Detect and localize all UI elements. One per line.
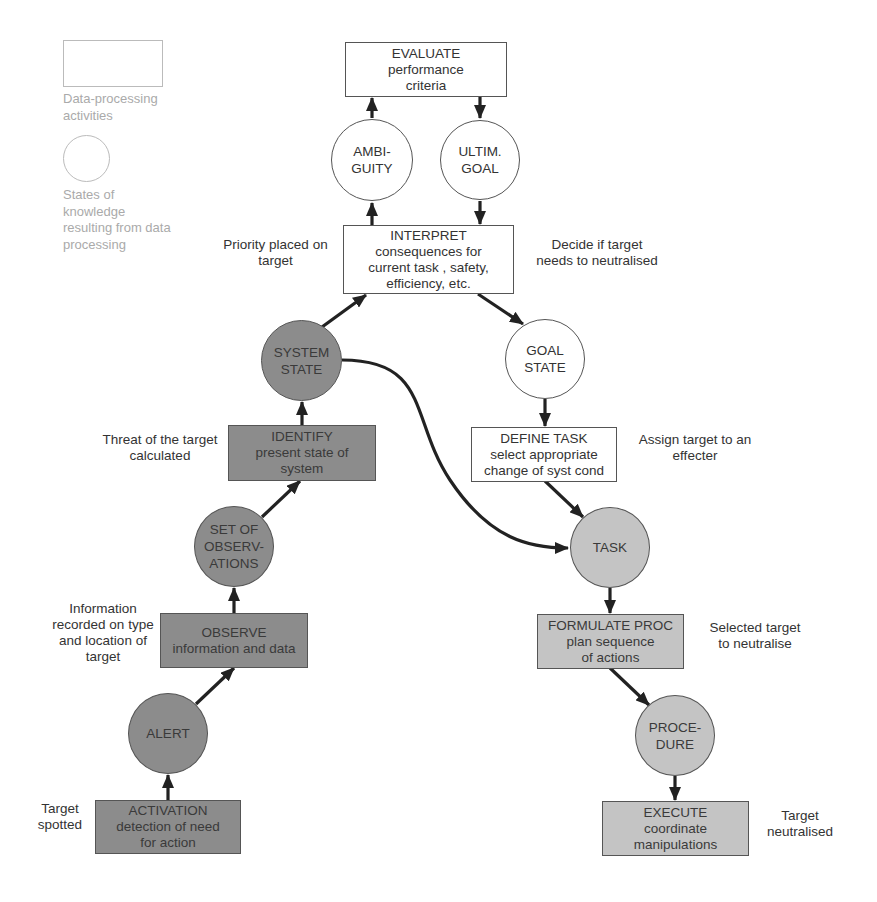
annotation-line: Selected target (700, 620, 810, 636)
legend-activity-label: Data-processing activities (63, 91, 158, 124)
annotation-decide: Decide if target needs to neutralised (522, 237, 672, 269)
legend-state-swatch (63, 135, 110, 182)
activity-observe: OBSERVE information and data (160, 613, 308, 668)
legend-activity-swatch (63, 40, 163, 87)
annotation-line: calculated (95, 448, 225, 464)
activity-line: present state of (255, 445, 348, 461)
legend-line: resulting from data (63, 220, 171, 237)
activity-line: for action (140, 835, 196, 851)
arrow-observations-identify (262, 481, 300, 517)
state-line: DURE (656, 736, 694, 753)
activity-interpret: INTERPRET consequences for current task … (343, 225, 514, 294)
legend-line: activities (63, 108, 158, 125)
state-ambiguity: AMBI- GUITY (331, 119, 413, 201)
activity-execute: EXECUTE coordinate manipulations (602, 801, 749, 856)
activity-line: plan sequence (567, 634, 655, 650)
annotation-line: needs to neutralised (522, 253, 672, 269)
activity-title: INTERPRET (390, 228, 467, 244)
state-task: TASK (570, 507, 650, 588)
activity-title: EVALUATE (392, 46, 461, 62)
annotation-line: effecter (630, 448, 760, 464)
annotation-line: Target (760, 808, 840, 824)
annotation-priority: Priority placed on target (213, 237, 338, 269)
annotation-spotted: Target spotted (30, 801, 90, 833)
state-line: AMBI- (353, 143, 391, 160)
arrow-alert-observe (196, 668, 234, 704)
legend-state-label: States of knowledge resulting from data … (63, 187, 171, 253)
state-procedure: PROCE- DURE (635, 695, 715, 776)
annotation-selected: Selected target to neutralise (700, 620, 810, 652)
legend-line: knowledge (63, 204, 171, 221)
activity-line: criteria (406, 78, 447, 94)
activity-title: FORMULATE PROC (548, 618, 673, 634)
annotation-threat: Threat of the target calculated (95, 432, 225, 464)
activity-title: EXECUTE (644, 805, 708, 821)
arrow-formulate-procedure (610, 668, 649, 705)
activity-line: select appropriate (490, 447, 597, 463)
annotation-line: Decide if target (522, 237, 672, 253)
arrow-interpret-goalstate (478, 294, 523, 324)
legend-line: Data-processing (63, 91, 158, 108)
activity-line: detection of need (116, 819, 220, 835)
annotation-neutralised: Target neutralised (760, 808, 840, 840)
state-set-of-observations: SET OF OBSERV- ATIONS (194, 506, 274, 587)
activity-title: OBSERVE (201, 625, 266, 641)
state-ultim-goal: ULTIM. GOAL (440, 120, 520, 200)
activity-line: information and data (172, 641, 295, 657)
state-line: GOAL (461, 160, 499, 177)
state-line: ALERT (146, 725, 189, 742)
annotation-line: Assign target to an (630, 432, 760, 448)
annotation-line: Target (30, 801, 90, 817)
activity-line: change of syst cond (484, 463, 604, 479)
state-line: OBSERV- (204, 538, 264, 555)
state-goal-state: GOAL STATE (505, 319, 585, 399)
state-system-state: SYSTEM STATE (261, 320, 342, 401)
annotation-line: recorded on type (48, 617, 158, 633)
annotation-assign: Assign target to an effecter (630, 432, 760, 464)
activity-line: consequences for (375, 244, 482, 260)
arrow-systemstate-interpret (322, 295, 366, 327)
activity-evaluate: EVALUATE performance criteria (345, 42, 507, 97)
state-line: GUITY (351, 160, 392, 177)
annotation-information: Information recorded on type and locatio… (48, 601, 158, 665)
annotation-line: neutralised (760, 824, 840, 840)
activity-title: DEFINE TASK (500, 431, 587, 447)
annotation-line: Information (48, 601, 158, 617)
state-line: TASK (593, 539, 627, 556)
activity-identify: IDENTIFY present state of system (228, 425, 376, 481)
activity-line: efficiency, etc. (386, 276, 470, 292)
annotation-line: spotted (30, 817, 90, 833)
annotation-line: Priority placed on (213, 237, 338, 253)
state-line: STATE (524, 359, 566, 376)
annotation-line: target (48, 649, 158, 665)
activity-line: current task , safety, (368, 260, 489, 276)
state-line: SYSTEM (274, 344, 330, 361)
activity-line: coordinate (644, 821, 707, 837)
activity-line: of actions (582, 650, 640, 666)
annotation-line: target (213, 253, 338, 269)
arrow-definetask-task (545, 481, 583, 517)
activity-title: ACTIVATION (128, 803, 207, 819)
state-line: ATIONS (209, 555, 258, 572)
legend-line: States of (63, 187, 171, 204)
activity-define-task: DEFINE TASK select appropriate change of… (471, 427, 617, 482)
state-line: STATE (281, 361, 323, 378)
annotation-line: to neutralise (700, 636, 810, 652)
activity-activation: ACTIVATION detection of need for action (95, 800, 241, 854)
activity-line: system (281, 461, 324, 477)
activity-line: manipulations (634, 837, 717, 853)
annotation-line: and location of (48, 633, 158, 649)
activity-formulate-proc: FORMULATE PROC plan sequence of actions (537, 614, 684, 669)
annotation-line: Threat of the target (95, 432, 225, 448)
state-line: SET OF (210, 521, 259, 538)
state-line: PROCE- (649, 719, 702, 736)
activity-line: performance (388, 62, 464, 78)
state-alert: ALERT (128, 693, 208, 774)
legend-line: processing (63, 237, 171, 254)
state-line: ULTIM. (458, 143, 501, 160)
activity-title: IDENTIFY (271, 429, 333, 445)
state-line: GOAL (526, 342, 564, 359)
